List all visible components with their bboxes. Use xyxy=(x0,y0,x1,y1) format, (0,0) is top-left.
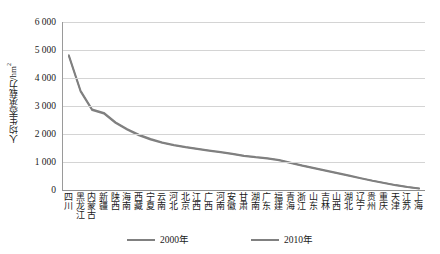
x-axis-category-label: 青海 xyxy=(284,192,295,210)
series-line xyxy=(69,55,419,188)
x-axis-category-label: 安徽 xyxy=(226,192,237,210)
legend-item[interactable]: 2010年 xyxy=(251,235,313,245)
legend-label: 2010年 xyxy=(284,235,313,245)
y-axis-tick-label: 3 000 xyxy=(35,102,56,111)
x-axis-category-label: 北京 xyxy=(179,192,190,210)
legend-label: 2000年 xyxy=(160,235,189,245)
x-axis-category-label: 海南 xyxy=(121,192,132,210)
y-axis-tick-label: 2 000 xyxy=(35,130,56,139)
legend-item[interactable]: 2000年 xyxy=(127,235,189,245)
y-axis-tick-label: 0 xyxy=(51,186,56,195)
x-axis-category-label: 云南 xyxy=(156,192,167,210)
gridline xyxy=(63,78,425,79)
y-axis-tick-label: 6 000 xyxy=(35,18,56,27)
x-axis-category-label: 吉林 xyxy=(319,192,330,210)
x-axis-category-label: 湖南 xyxy=(249,192,260,210)
gridline xyxy=(63,50,425,51)
x-axis-category-label: 江苏 xyxy=(401,192,412,210)
x-axis-category-label: 重庆 xyxy=(378,192,389,210)
x-axis-category-label: 山西 xyxy=(331,192,342,210)
x-axis-category-label: 江西 xyxy=(191,192,202,210)
y-axis-tick-label: 5 000 xyxy=(35,46,56,55)
x-axis-category-label: 湖北 xyxy=(343,192,354,210)
x-axis-category-label: 贵州 xyxy=(366,192,377,210)
x-axis-category-label: 福建 xyxy=(273,192,284,210)
x-axis-category-label: 甘肃 xyxy=(238,192,249,210)
gridline xyxy=(63,22,425,23)
x-axis-category-label: 陕西 xyxy=(109,192,120,210)
gridline xyxy=(63,134,425,135)
x-axis-category-label: 宁夏 xyxy=(144,192,155,210)
y-axis-title: 人均生态承载力/hm2 xyxy=(2,28,16,178)
x-axis-category-label: 新疆 xyxy=(97,192,108,210)
x-axis-category-label: 内蒙古 xyxy=(86,192,97,219)
x-axis-category-label: 山东 xyxy=(308,192,319,210)
series-line xyxy=(69,56,419,188)
x-axis-category-label: 黑龙江 xyxy=(74,192,85,219)
x-axis-category-label: 西藏 xyxy=(132,192,143,210)
y-axis-tick-labels: 6 0005 0004 0003 0002 0001 0000 xyxy=(16,14,60,196)
x-axis-category-label: 广东 xyxy=(261,192,272,210)
x-axis-category-label: 四川 xyxy=(62,192,73,210)
chart-legend: 2000年2010年 xyxy=(0,231,440,249)
x-axis-category-label: 天津 xyxy=(389,192,400,210)
x-axis-category-labels: 四川黑龙江内蒙古新疆陕西海南西藏宁夏云南河北北京江西广西河南安徽甘肃湖南广东福建… xyxy=(62,192,424,230)
x-axis-category-label: 河北 xyxy=(167,192,178,210)
x-axis-category-label: 辽宁 xyxy=(354,192,365,210)
y-axis-tick-label: 4 000 xyxy=(35,74,56,83)
ecological-carrying-capacity-line-chart: 人均生态承载力/hm2 6 0005 0004 0003 0002 0001 0… xyxy=(0,0,440,254)
legend-line-swatch xyxy=(127,239,155,241)
legend-line-swatch xyxy=(251,239,279,241)
y-axis-tick-label: 1 000 xyxy=(35,158,56,167)
x-axis-category-label: 河南 xyxy=(214,192,225,210)
x-axis-category-label: 广西 xyxy=(202,192,213,210)
x-axis-category-label: 浙江 xyxy=(296,192,307,210)
x-axis-category-label: 上海 xyxy=(413,192,424,210)
gridline xyxy=(63,106,425,107)
gridline xyxy=(63,162,425,163)
plot-area xyxy=(62,22,425,191)
